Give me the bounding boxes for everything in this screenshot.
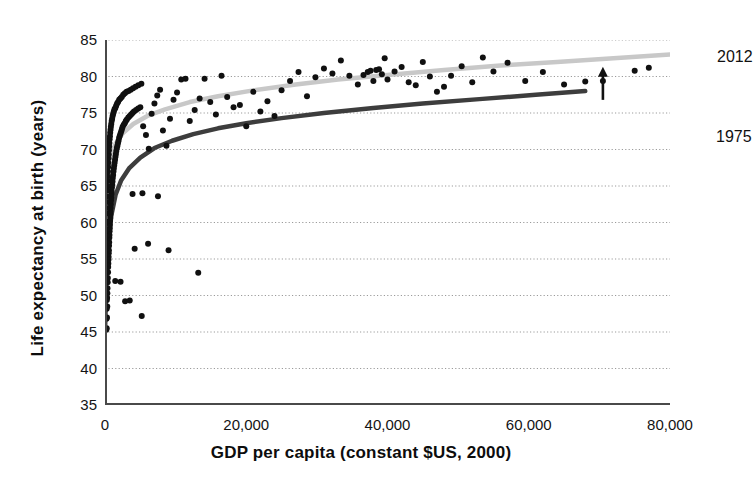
y-tick-label-75: 75 xyxy=(51,104,97,121)
x-tick-label-80000: 80,000 xyxy=(625,416,715,433)
x-tick-label-0: 0 xyxy=(60,416,150,433)
y-tick-label-60: 60 xyxy=(51,214,97,231)
curve-label-2012: 2012 xyxy=(717,48,753,66)
x-tick-label-60000: 60,000 xyxy=(484,416,574,433)
x-tick-label-40000: 40,000 xyxy=(343,416,433,433)
x-tick-label-20000: 20,000 xyxy=(201,416,291,433)
y-axis-title: Life expectancy at birth (years) xyxy=(28,38,48,418)
y-tick-label-45: 45 xyxy=(51,323,97,340)
y-tick-label-65: 65 xyxy=(51,177,97,194)
y-tick-label-85: 85 xyxy=(51,31,97,48)
y-tick-label-70: 70 xyxy=(51,141,97,158)
y-tick-label-35: 35 xyxy=(51,396,97,413)
curve-label-1975: 1975 xyxy=(716,128,752,146)
y-tick-label-80: 80 xyxy=(51,68,97,85)
plot-axes-frame xyxy=(105,40,670,405)
y-tick-label-55: 55 xyxy=(51,250,97,267)
plot-area: 2012 1975 xyxy=(105,40,670,405)
y-tick-label-50: 50 xyxy=(51,287,97,304)
x-axis-title: GDP per capita (constant $US, 2000) xyxy=(0,443,722,463)
y-tick-label-40: 40 xyxy=(51,360,97,377)
